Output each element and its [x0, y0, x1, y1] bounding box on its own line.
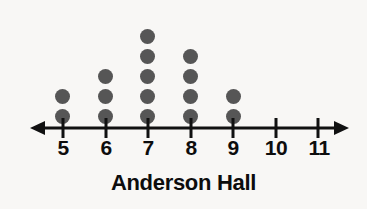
- axis-arrow-left-icon: [30, 121, 45, 135]
- chart-title: Anderson Hall: [0, 170, 367, 196]
- tick-label-9: 9: [218, 136, 248, 160]
- axis-arrow-right-icon: [334, 121, 349, 135]
- tick-label-7: 7: [133, 136, 163, 160]
- tick-label-8: 8: [176, 136, 206, 160]
- dot-plot-figure: 5 6 7 8 9 10 11 Anderson Hall: [0, 0, 367, 209]
- tick-label-5: 5: [48, 136, 78, 160]
- tick-label-11: 11: [301, 136, 337, 160]
- tick-label-10: 10: [258, 136, 294, 160]
- tick-label-6: 6: [91, 136, 121, 160]
